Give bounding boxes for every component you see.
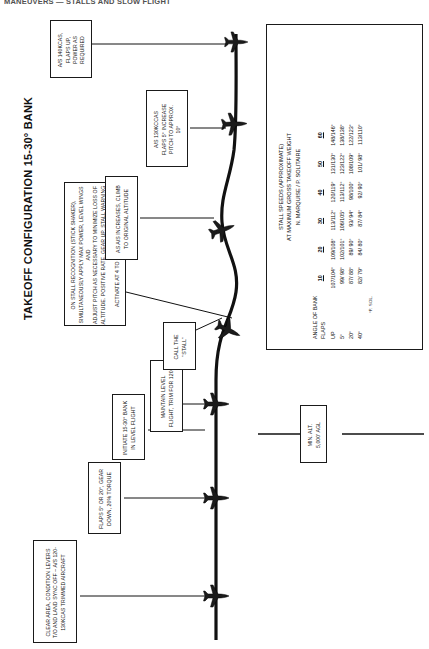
leader-line-call-the-stall (196, 318, 222, 330)
cell-up-20: 109/108° (329, 235, 338, 264)
aircraft-symbol-6-climb (221, 113, 247, 136)
aircraft-symbol-2 (204, 487, 230, 509)
cell-up-50: 131/130° (329, 150, 338, 179)
cell-5-30: 106/105° (338, 207, 347, 236)
stall-speeds-table-rotated: STALL SPEEDS (APPROXIMATE) AT MAXIMUM GR… (267, 25, 422, 349)
callout-initiate-bank-text: INITIATE 15-30° BANK IN LEVEL FLIGHT (113, 395, 146, 461)
col-header-30: 30 (310, 207, 329, 236)
callout-clear-area-setup: CLEAR AREA, CONDITION LEVERS T/O AND LAN… (33, 540, 77, 643)
col-header-50: 50 (310, 150, 329, 179)
callout-call-the-stall-text: CALL THE "STALL" (164, 323, 197, 371)
callout-minimum-altitude-text: MIN. ALT. 5,000' AGL (301, 406, 328, 464)
row-label-up: UP (329, 293, 338, 339)
page-title-text: TAKEOFF CONFIGURATION 15-30° BANK (22, 97, 34, 320)
col-header-40: 40 (310, 178, 329, 206)
cell-40-20: 84/ 80° (356, 235, 365, 264)
stall-speeds-grid: ANGLE OF BANK FLAPS 10 20 30 40 50 60 UP… (310, 121, 365, 339)
cell-5-60: 138/138° (338, 121, 347, 150)
aircraft-symbol-3 (204, 393, 230, 415)
callout-clean-up: A/S 140KCAS, FLAPS UP, POWER AS REQUIRED (50, 20, 92, 78)
cell-5-10: 99/ 98° (338, 264, 347, 293)
callout-flaps-gear-text: FLAPS 5° OR 20°, GEAR DOWN, 20% TORQUE (89, 463, 122, 535)
cell-up-30: 113/112° (329, 207, 338, 236)
row-label-40: 40° (356, 293, 365, 339)
table-corner-header: ANGLE OF BANK FLAPS (310, 293, 329, 339)
aircraft-symbol-7-clean (225, 32, 248, 52)
callout-clean-up-text: A/S 140KCAS, FLAPS UP, POWER AS REQUIRED (51, 21, 93, 79)
cell-20-10: 87/ 88° (347, 264, 356, 293)
aircraft-symbol-5-recovery (206, 215, 237, 244)
sheet-header: MANEUVERS — STALLS AND SLOW FLIGHT (4, 0, 304, 6)
callout-initiate-bank: INITIATE 15-30° BANK IN LEVEL FLIGHT (112, 394, 145, 460)
stall-speeds-table: STALL SPEEDS (APPROXIMATE) AT MAXIMUM GR… (266, 24, 423, 350)
callout-minimum-altitude: MIN. ALT. 5,000' AGL (300, 405, 327, 463)
cell-5-50: 123/122° (338, 150, 347, 179)
callout-maintain-level-flight-text: MAINTAIN LEVEL FLIGHT, TRIM FOR 120K (151, 361, 184, 433)
callout-call-the-stall: CALL THE "STALL" (163, 322, 196, 370)
stall-speeds-table-note: °P. SOL. (368, 25, 373, 313)
cell-up-10: 107/104° (329, 264, 338, 293)
cell-40-60: 113/110° (356, 121, 365, 150)
callout-climb-to-original-altitude: AS A/S INCREASES, CLIMB TO ORIGINAL ALTI… (105, 176, 138, 260)
cell-20-40: 98/100° (347, 178, 356, 206)
leader-line-recognition (126, 292, 232, 318)
cell-5-20: 102/101° (338, 235, 347, 264)
callout-clear-area-setup-text: CLEAR AREA, CONDITION LEVERS T/O AND LAN… (34, 541, 78, 644)
col-header-60: 60 (310, 121, 329, 150)
cell-40-10: 82/ 79° (356, 264, 365, 293)
page-title: TAKEOFF CONFIGURATION 15-30° BANK (22, 97, 34, 320)
callout-flaps-5-increase-pitch: A/S 130KCCAS FLAPS 5° INCREASE PITCH TO … (146, 90, 188, 167)
cell-20-50: 108/109° (347, 150, 356, 179)
table-row: 5° 99/ 98° 102/101° 106/105° 113/112° 12… (338, 121, 347, 339)
stall-speeds-table-title: STALL SPEEDS (APPROXIMATE) AT MAXIMUM GR… (277, 25, 302, 349)
row-label-20: 20° (347, 293, 356, 339)
cell-up-60: 148/146° (329, 121, 338, 150)
table-row: 40° 82/ 79° 84/ 80° 87/ 84° 92/ 90° 101/… (356, 121, 365, 339)
aircraft-symbol-4-stall (212, 315, 244, 346)
cell-40-50: 101/ 98° (356, 150, 365, 179)
table-row: UP 107/104° 109/108° 113/112° 120/119° 1… (329, 121, 338, 339)
cell-5-40: 113/112° (338, 178, 347, 206)
cell-up-40: 120/119° (329, 178, 338, 206)
row-label-5: 5° (338, 293, 347, 339)
aircraft-symbol-1 (204, 585, 230, 607)
cell-20-20: 89/ 90° (347, 235, 356, 264)
callout-flaps-gear: FLAPS 5° OR 20°, GEAR DOWN, 20% TORQUE (88, 462, 121, 534)
col-header-10: 10 (310, 264, 329, 293)
cell-40-40: 92/ 90° (356, 178, 365, 206)
flight-path-segment-stall-recovery (216, 34, 237, 380)
table-row: 20° 87/ 88° 89/ 90° 93/ 94° 98/100° 108/… (347, 121, 356, 339)
cell-20-30: 93/ 94° (347, 207, 356, 236)
callout-flaps-5-increase-pitch-text: A/S 130KCCAS FLAPS 5° INCREASE PITCH TO … (147, 91, 189, 168)
callout-climb-to-original-altitude-text: AS A/S INCREASES, CLIMB TO ORIGINAL ALTI… (106, 177, 139, 261)
cell-20-60: 122/123° (347, 121, 356, 150)
cell-40-30: 87/ 84° (356, 207, 365, 236)
table-header-row: ANGLE OF BANK FLAPS 10 20 30 40 50 60 (310, 121, 329, 339)
col-header-20: 20 (310, 235, 329, 264)
